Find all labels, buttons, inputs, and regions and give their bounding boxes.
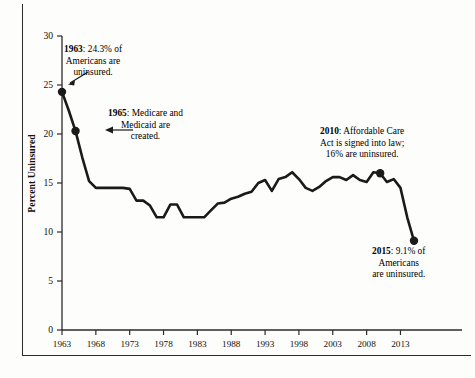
x-axis-ticks: 1963196819731978198319881993199820032008… — [53, 330, 410, 349]
x-tick-label: 1968 — [87, 339, 106, 349]
data-point-marker — [58, 88, 66, 96]
x-tick-label: 2013 — [391, 339, 410, 349]
annotation-2010-line1: 2010: Affordable Care — [320, 126, 404, 138]
x-tick-label: 1988 — [222, 339, 241, 349]
x-tick-label: 2008 — [357, 339, 376, 349]
annotation-2015: 2015: 9.1% of Americans are uninsured. — [372, 246, 425, 281]
x-tick-label: 1973 — [121, 339, 140, 349]
x-tick-label: 2003 — [324, 339, 343, 349]
annotation-2010-line2: Act is signed into law; — [320, 138, 404, 150]
annotation-1965-line2: Medicaid are — [108, 120, 183, 132]
x-tick-label: 1998 — [290, 339, 309, 349]
arrow-1963-head — [68, 80, 75, 85]
annotation-1963-line1: 1963: 24.3% of — [64, 44, 122, 56]
x-tick-label: 1978 — [154, 339, 173, 349]
chart-figure: 051015202530 196319681973197819831988199… — [0, 0, 475, 378]
x-tick-label: 1963 — [53, 339, 72, 349]
y-tick-label: 20 — [43, 128, 53, 139]
annotation-2015-line3: are uninsured. — [372, 269, 425, 281]
y-tick-label: 30 — [43, 30, 53, 41]
data-point-marker — [71, 127, 79, 135]
annotation-1963-rest1: : 24.3% of — [83, 44, 122, 54]
y-tick-label: 15 — [43, 177, 53, 188]
annotation-2015-line2: Americans — [372, 258, 425, 270]
x-tick-label: 1993 — [256, 339, 275, 349]
y-tick-label: 0 — [48, 324, 53, 335]
annotation-1963-line2: Americans are — [64, 56, 122, 68]
annotation-1965: 1965: Medicare and Medicaid are created. — [108, 108, 183, 143]
annotation-1965-rest1: : Medicare and — [127, 108, 183, 118]
annotation-2015-year: 2015 — [372, 246, 391, 256]
annotation-2010-year: 2010 — [320, 126, 339, 136]
y-tick-label: 5 — [48, 275, 53, 286]
y-axis-label: Percent Uninsured — [26, 119, 37, 229]
annotation-2010-line3: 16% are uninsured. — [320, 149, 404, 161]
x-tick-label: 1983 — [188, 339, 207, 349]
y-axis-ticks: 051015202530 — [43, 30, 62, 335]
data-point-marker — [376, 169, 384, 177]
annotation-1965-line1: 1965: Medicare and — [108, 108, 183, 120]
annotation-2010: 2010: Affordable Care Act is signed into… — [320, 126, 404, 161]
annotation-1965-line3: created. — [108, 131, 183, 143]
annotation-1963: 1963: 24.3% of Americans are uninsured. — [64, 44, 122, 79]
annotation-2015-rest1: : 9.1% of — [391, 246, 426, 256]
y-tick-label: 25 — [43, 79, 53, 90]
y-tick-label: 10 — [43, 226, 53, 237]
annotation-1963-year: 1963 — [64, 44, 83, 54]
annotation-1965-year: 1965 — [108, 108, 127, 118]
data-point-marker — [410, 237, 418, 245]
annotation-2015-line1: 2015: 9.1% of — [372, 246, 425, 258]
annotation-2010-rest1: : Affordable Care — [339, 126, 404, 136]
annotation-1963-line3: uninsured. — [64, 67, 122, 79]
